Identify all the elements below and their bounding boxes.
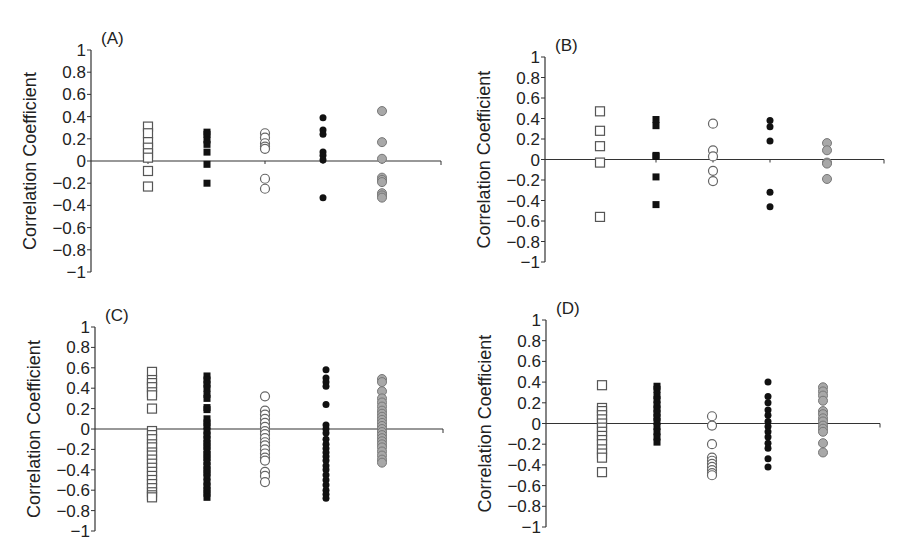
open-circle-marker — [708, 421, 717, 430]
gray-circle-marker — [378, 107, 387, 116]
filled-circle-marker — [320, 114, 327, 121]
y-tick-label: −0.4 — [52, 196, 86, 215]
filled-circle-marker — [323, 430, 330, 437]
open-square-marker — [144, 153, 153, 162]
y-tick-label: −0.4 — [506, 192, 540, 211]
filled-square-marker — [653, 201, 660, 208]
open-circle-marker — [261, 184, 270, 193]
filled-circle-marker — [765, 399, 772, 406]
gray-circle-marker — [823, 159, 832, 168]
y-tick-label: 0 — [531, 151, 540, 170]
gray-circle-marker — [378, 178, 387, 187]
open-square-marker — [148, 404, 157, 413]
panel-b-label: (B) — [555, 36, 578, 55]
y-tick-label: −0.8 — [506, 233, 540, 252]
gray-circle-marker — [378, 458, 387, 467]
panel-a-label: (A) — [101, 29, 124, 48]
filled-square-marker — [204, 395, 211, 402]
filled-square-marker — [204, 180, 211, 187]
open-square-marker — [598, 453, 607, 462]
y-tick-label: 0.6 — [517, 352, 541, 371]
panel-d: (D) Correlation Coefficient 10.80.60.40.… — [475, 299, 880, 537]
y-tick-label: 0.2 — [62, 130, 86, 149]
y-tick-label: −0.2 — [52, 174, 86, 193]
figure-canvas: (A) Correlation Coefficient 10.80.60.40.… — [0, 0, 904, 560]
open-square-marker — [148, 391, 157, 400]
gray-circle-marker — [819, 396, 828, 405]
filled-square-marker — [653, 116, 660, 123]
gray-circle-marker — [823, 146, 832, 155]
open-square-marker — [598, 381, 607, 390]
filled-square-marker — [204, 141, 211, 148]
open-square-marker — [144, 182, 153, 191]
open-circle-marker — [709, 119, 718, 128]
panel-a-data-points — [144, 107, 387, 203]
y-tick-label: 0.4 — [62, 108, 86, 127]
y-tick-label: 0.6 — [62, 85, 86, 104]
y-tick-label: 0.2 — [517, 394, 541, 413]
y-tick-label: −0.6 — [56, 481, 90, 500]
panel-d-data-points — [598, 379, 828, 480]
y-tick-label: 0.2 — [516, 130, 540, 149]
y-tick-label: −0.4 — [507, 456, 541, 475]
y-tick-label: −0.8 — [52, 241, 86, 260]
panel-a: (A) Correlation Coefficient 10.80.60.40.… — [20, 29, 441, 282]
y-tick-label: 0.8 — [517, 332, 541, 351]
y-tick-label: −1 — [522, 518, 541, 537]
gray-circle-marker — [378, 154, 387, 163]
filled-circle-marker — [765, 433, 772, 440]
open-square-marker — [596, 212, 605, 221]
open-square-marker — [144, 129, 153, 138]
panel-c-label: (C) — [105, 306, 129, 325]
y-tick-label: 1 — [77, 41, 86, 60]
y-tick-label: 0.4 — [516, 110, 540, 129]
open-circle-marker — [261, 144, 270, 153]
filled-circle-marker — [767, 189, 774, 196]
filled-circle-marker — [765, 412, 772, 419]
filled-square-marker — [654, 386, 661, 393]
filled-circle-marker — [765, 379, 772, 386]
open-circle-marker — [708, 440, 717, 449]
filled-square-marker — [653, 122, 660, 129]
y-tick-label: 0.6 — [516, 89, 540, 108]
filled-square-marker — [204, 494, 211, 501]
open-circle-marker — [261, 456, 270, 465]
y-tick-label: 0.8 — [62, 63, 86, 82]
filled-circle-marker — [320, 156, 327, 163]
filled-circle-marker — [767, 203, 774, 210]
filled-square-marker — [653, 153, 660, 160]
open-circle-marker — [261, 478, 270, 487]
filled-circle-marker — [767, 117, 774, 124]
filled-circle-marker — [767, 123, 774, 130]
open-square-marker — [596, 107, 605, 116]
open-circle-marker — [709, 177, 718, 186]
filled-square-marker — [204, 149, 211, 156]
y-tick-label: −0.8 — [56, 502, 90, 521]
y-tick-label: 0.4 — [517, 373, 541, 392]
panel-c-y-axis-title: Correlation Coefficient — [24, 340, 44, 518]
y-tick-label: −0.4 — [56, 461, 90, 480]
filled-circle-marker — [323, 366, 330, 373]
panel-b-data-points — [596, 107, 832, 222]
gray-circle-marker — [819, 448, 828, 457]
y-tick-label: 0.4 — [66, 379, 90, 398]
open-circle-marker — [708, 471, 717, 480]
filled-circle-marker — [765, 393, 772, 400]
y-tick-label: −0.6 — [506, 212, 540, 231]
y-tick-label: 0.8 — [66, 338, 90, 357]
filled-circle-marker — [323, 401, 330, 408]
filled-circle-marker — [765, 445, 772, 452]
y-tick-label: −0.2 — [507, 435, 541, 454]
y-tick-label: −0.2 — [56, 440, 90, 459]
open-square-marker — [598, 468, 607, 477]
open-circle-marker — [709, 166, 718, 175]
filled-circle-marker — [767, 138, 774, 145]
open-square-marker — [596, 158, 605, 167]
open-square-marker — [144, 166, 153, 175]
gray-circle-marker — [378, 378, 387, 387]
gray-circle-marker — [823, 174, 832, 183]
filled-circle-marker — [323, 383, 330, 390]
y-tick-label: 1 — [531, 48, 540, 67]
y-tick-label: 1 — [532, 311, 541, 330]
y-tick-label: −0.8 — [507, 497, 541, 516]
